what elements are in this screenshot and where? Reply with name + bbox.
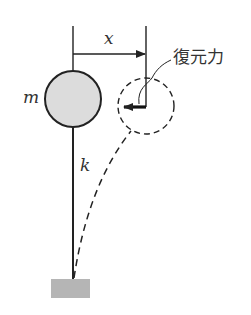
leader-line [139,60,171,104]
deflected-rod-curve [74,131,131,278]
displacement-label: x [104,28,114,48]
mass-label: m [23,87,39,107]
base-block [51,279,90,298]
mass-circle [45,71,101,127]
stiffness-label: k [80,155,90,175]
restoring-force-label: 復元力 [173,47,224,67]
spring-mass-diagram: x m k 復元力 [0,0,251,315]
